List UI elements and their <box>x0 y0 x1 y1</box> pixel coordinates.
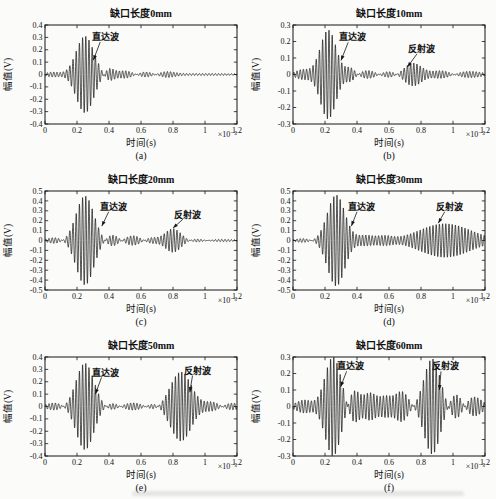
annotation-label: 反射波 <box>408 43 436 54</box>
subplot-b: 00.20.40.60.811.20.30.20.10-0.1-0.2-0.3缺… <box>248 0 496 166</box>
x-tick-label: 0.6 <box>384 292 394 301</box>
subplot-title: 缺口长度10mm <box>355 7 423 19</box>
subplot-f: 00.20.40.60.811.20.30.20.10-0.1-0.2-0.3缺… <box>248 332 496 499</box>
x-tick-label: 1 <box>203 292 207 301</box>
x-tick-label: 0 <box>43 292 47 301</box>
y-tick-label: 0.1 <box>33 226 43 235</box>
annotation-label: 反射波 <box>432 360 460 371</box>
y-tick-label: -0.3 <box>278 266 291 275</box>
subplot-letter: (a) <box>135 150 146 162</box>
subplot-d: 00.20.40.60.811.20.50.40.30.20.10-0.1-0.… <box>248 166 496 332</box>
x-tick-label: 1 <box>451 292 455 301</box>
y-tick-label: 0.2 <box>281 369 291 378</box>
waveform-c <box>45 196 237 285</box>
faint-caption-remnant <box>132 491 464 496</box>
x-tick-label: 0.4 <box>104 126 114 135</box>
waveform-b <box>293 30 485 119</box>
chart-b: 00.20.40.60.811.20.30.20.10-0.1-0.2-0.3缺… <box>248 0 496 166</box>
y-axis-label: 幅值(V) <box>250 58 262 91</box>
subplot-e: 00.20.40.60.811.20.40.30.20.10-0.1-0.2-0… <box>0 332 248 499</box>
y-tick-label: 0.4 <box>281 197 291 206</box>
x-tick-label: 0.2 <box>72 292 82 301</box>
annotation-arrowhead <box>438 218 442 223</box>
subplot-title: 缺口长度20mm <box>107 173 175 185</box>
y-tick-label: 0.3 <box>33 365 43 374</box>
subplot-a: 00.20.40.60.811.20.40.30.20.10-0.1-0.2-0… <box>0 0 248 166</box>
chart-a: 00.20.40.60.811.20.40.30.20.10-0.1-0.2-0… <box>0 0 248 166</box>
y-tick-label: -0.1 <box>30 246 43 255</box>
y-tick-label: 0 <box>39 70 43 79</box>
y-tick-label: 0.3 <box>281 206 291 215</box>
annotation-label: 直达波 <box>339 31 367 42</box>
annotation-arrowhead <box>341 381 345 386</box>
y-tick-label: -0.4 <box>30 120 43 129</box>
y-tick-label: 0 <box>287 402 291 411</box>
x-scale-label: ×10⁻³ <box>218 462 238 471</box>
y-axis-label: 幅值(V) <box>250 224 262 257</box>
x-tick-label: 0.6 <box>136 292 146 301</box>
x-tick-label: 0.8 <box>168 126 178 135</box>
x-tick-label: 0 <box>43 126 47 135</box>
subplot-letter: (c) <box>135 316 146 328</box>
annotation-label: 直达波 <box>100 201 128 212</box>
y-tick-label: -0.2 <box>30 427 43 436</box>
subplot-title: 缺口长度50mm <box>107 339 175 351</box>
x-scale-label: ×10⁻³ <box>466 130 486 139</box>
y-tick-label: 0.2 <box>281 216 291 225</box>
subplot-letter: (d) <box>383 316 395 328</box>
annotation-arrowhead <box>341 55 345 60</box>
x-tick-label: 0.4 <box>352 126 362 135</box>
x-axis-label: 时间(s) <box>126 137 156 149</box>
x-scale-label: ×10⁻³ <box>466 462 486 471</box>
x-tick-label: 0.8 <box>168 292 178 301</box>
y-tick-label: -0.3 <box>30 107 43 116</box>
waveform-figure: 00.20.40.60.811.20.40.30.20.10-0.1-0.2-0… <box>0 0 496 499</box>
y-tick-label: -0.2 <box>278 103 291 112</box>
y-tick-label: -0.2 <box>30 95 43 104</box>
y-tick-label: -0.2 <box>30 256 43 265</box>
x-tick-label: 1 <box>451 126 455 135</box>
y-tick-label: 0 <box>287 70 291 79</box>
y-tick-label: -0.3 <box>30 266 43 275</box>
x-tick-label: 0.8 <box>416 126 426 135</box>
y-tick-label: 0.1 <box>33 390 43 399</box>
y-tick-label: 0.3 <box>33 206 43 215</box>
y-tick-label: 0.1 <box>281 226 291 235</box>
y-tick-label: -0.4 <box>30 452 43 461</box>
x-tick-label: 0.2 <box>72 126 82 135</box>
annotation-arrowhead <box>102 221 106 226</box>
chart-c: 00.20.40.60.811.20.50.40.30.20.10-0.1-0.… <box>0 166 248 332</box>
y-tick-label: -0.1 <box>278 87 291 96</box>
x-tick-label: 0.4 <box>104 292 114 301</box>
y-tick-label: -0.3 <box>278 120 291 129</box>
waveform-e <box>45 363 237 449</box>
y-tick-label: -0.1 <box>30 414 43 423</box>
annotation-label: 直达波 <box>348 201 376 212</box>
waveform-a <box>45 36 237 112</box>
annotation-label: 反射波 <box>174 209 202 220</box>
x-tick-label: 0.2 <box>320 458 330 467</box>
x-tick-label: 0 <box>291 458 295 467</box>
y-tick-label: -0.3 <box>30 439 43 448</box>
x-scale-label: ×10⁻³ <box>218 130 238 139</box>
annotation-label: 直达波 <box>337 360 365 371</box>
y-tick-label: 0.1 <box>281 386 291 395</box>
y-tick-label: 0.2 <box>281 37 291 46</box>
x-tick-label: 0.6 <box>136 126 146 135</box>
y-tick-label: 0.4 <box>33 21 43 30</box>
x-tick-label: 0.4 <box>104 458 114 467</box>
y-tick-label: 0.4 <box>33 197 43 206</box>
x-tick-label: 0.8 <box>416 458 426 467</box>
y-tick-label: -0.1 <box>30 82 43 91</box>
subplot-letter: (b) <box>383 150 395 162</box>
x-tick-label: 0.2 <box>72 458 82 467</box>
annotation-label: 反射波 <box>436 201 464 212</box>
y-tick-label: 0.3 <box>33 33 43 42</box>
x-tick-label: 0.4 <box>352 458 362 467</box>
x-axis-label: 时间(s) <box>126 469 156 481</box>
x-axis-label: 时间(s) <box>374 303 404 315</box>
y-tick-label: 0.3 <box>281 353 291 362</box>
waveform-f <box>293 357 485 455</box>
x-tick-label: 0.8 <box>168 458 178 467</box>
y-tick-label: -0.3 <box>278 452 291 461</box>
